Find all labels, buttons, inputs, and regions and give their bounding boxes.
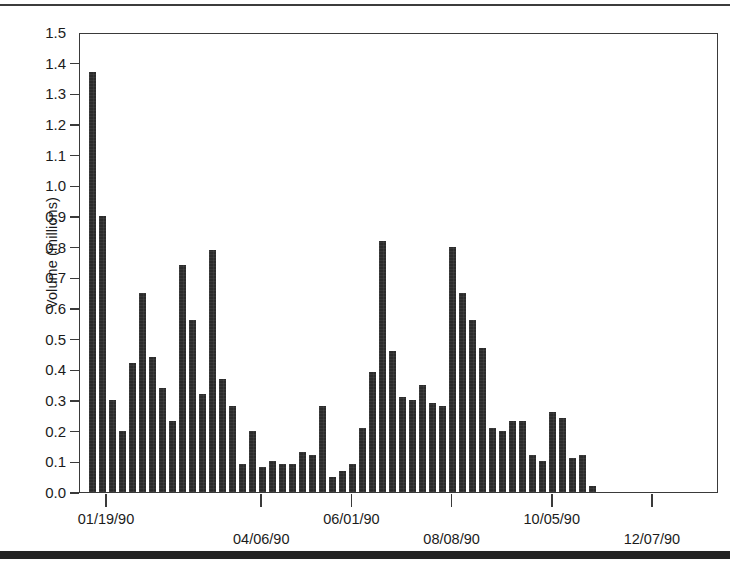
bar bbox=[439, 406, 446, 492]
y-tick-label-wrap: 0.5 bbox=[22, 340, 66, 341]
y-tick-label-wrap: 1.3 bbox=[22, 94, 66, 95]
x-tick-mark bbox=[351, 494, 353, 507]
bar-series bbox=[80, 34, 717, 492]
y-tick-mark bbox=[70, 155, 79, 157]
y-tick-label-wrap: 0.3 bbox=[22, 401, 66, 402]
y-tick-mark bbox=[70, 492, 79, 494]
bar bbox=[529, 455, 536, 492]
bar bbox=[379, 241, 386, 492]
bar bbox=[489, 428, 496, 492]
x-tick-mark bbox=[551, 494, 553, 507]
bar bbox=[299, 452, 306, 492]
y-tick-label: 0.6 bbox=[26, 301, 66, 316]
x-tick-label: 04/06/90 bbox=[233, 531, 289, 547]
bar bbox=[189, 320, 196, 492]
x-tick-mark bbox=[260, 494, 262, 507]
bar bbox=[349, 464, 356, 492]
bar bbox=[309, 455, 316, 492]
bar bbox=[449, 247, 456, 492]
bar bbox=[289, 464, 296, 492]
bar bbox=[589, 486, 596, 492]
x-tick-label: 10/05/90 bbox=[524, 511, 580, 527]
y-tick-mark bbox=[70, 370, 79, 372]
bar bbox=[249, 431, 256, 492]
y-tick-mark bbox=[70, 94, 79, 96]
bar bbox=[209, 250, 216, 492]
bar bbox=[539, 461, 546, 492]
y-tick-label: 1.1 bbox=[26, 148, 66, 163]
y-tick-mark bbox=[70, 339, 79, 341]
y-tick-label: 0.5 bbox=[26, 332, 66, 347]
y-tick-label-wrap: 0.7 bbox=[22, 278, 66, 279]
x-tick-label: 06/01/90 bbox=[323, 511, 379, 527]
y-tick-mark bbox=[70, 63, 79, 65]
y-tick-label: 1.3 bbox=[26, 86, 66, 101]
y-tick-label-wrap: 1.4 bbox=[22, 64, 66, 65]
y-tick-label-wrap: 0.1 bbox=[22, 462, 66, 463]
y-tick-label: 0.1 bbox=[26, 454, 66, 469]
bar bbox=[479, 348, 486, 492]
bar bbox=[129, 363, 136, 492]
bar bbox=[259, 467, 266, 492]
bar bbox=[169, 421, 176, 492]
bar bbox=[459, 293, 466, 492]
x-tick-mark bbox=[651, 494, 653, 507]
y-tick-label: 0.0 bbox=[26, 485, 66, 500]
y-tick-mark bbox=[70, 247, 79, 249]
bar bbox=[389, 351, 396, 492]
bar bbox=[139, 293, 146, 492]
bar bbox=[339, 471, 346, 492]
bar bbox=[359, 428, 366, 492]
bar bbox=[109, 400, 116, 492]
scanned-page: Volume (millions) 1.51.41.31.21.11.00.90… bbox=[0, 0, 730, 567]
y-tick-mark bbox=[70, 124, 79, 126]
bar bbox=[329, 477, 336, 492]
y-tick-label-wrap: 0.6 bbox=[22, 309, 66, 310]
y-tick-label: 0.3 bbox=[26, 393, 66, 408]
y-tick-label-wrap: 0.4 bbox=[22, 370, 66, 371]
bar bbox=[269, 461, 276, 492]
bar bbox=[579, 455, 586, 492]
bar bbox=[319, 406, 326, 492]
bar bbox=[409, 400, 416, 492]
bar bbox=[569, 458, 576, 492]
y-tick-label: 1.0 bbox=[26, 178, 66, 193]
bar bbox=[239, 464, 246, 492]
bar bbox=[369, 372, 376, 492]
y-tick-mark bbox=[70, 278, 79, 280]
x-tick-label: 12/07/90 bbox=[624, 531, 680, 547]
y-tick-label-wrap: 1.1 bbox=[22, 156, 66, 157]
y-tick-mark bbox=[70, 186, 79, 188]
x-tick-mark bbox=[451, 494, 453, 507]
bar bbox=[229, 406, 236, 492]
bar bbox=[429, 403, 436, 492]
y-tick-label: 1.4 bbox=[26, 56, 66, 71]
bar bbox=[119, 431, 126, 492]
bar bbox=[99, 216, 106, 492]
page-bottom-band bbox=[0, 551, 730, 559]
bar bbox=[509, 421, 516, 492]
bar bbox=[279, 464, 286, 492]
x-tick-mark bbox=[105, 494, 107, 507]
bar-chart-figure: Volume (millions) 1.51.41.31.21.11.00.90… bbox=[0, 0, 730, 551]
bar bbox=[469, 320, 476, 492]
plot-area bbox=[79, 33, 718, 493]
y-tick-label-wrap: 1.0 bbox=[22, 186, 66, 187]
bar bbox=[559, 418, 566, 492]
y-tick-label: 0.4 bbox=[26, 362, 66, 377]
bar bbox=[219, 379, 226, 492]
y-tick-label: 0.9 bbox=[26, 209, 66, 224]
y-tick-mark bbox=[70, 400, 79, 402]
bar bbox=[549, 412, 556, 492]
y-tick-label-wrap: 0.2 bbox=[22, 432, 66, 433]
bar bbox=[399, 397, 406, 492]
y-tick-label: 1.2 bbox=[26, 117, 66, 132]
bar bbox=[179, 265, 186, 492]
y-tick-label-wrap: 1.2 bbox=[22, 125, 66, 126]
y-tick-label: 1.5 bbox=[26, 25, 66, 40]
y-tick-mark bbox=[70, 308, 79, 310]
y-tick-label: 0.8 bbox=[26, 240, 66, 255]
bar bbox=[89, 72, 96, 492]
bar bbox=[199, 394, 206, 492]
bar bbox=[499, 431, 506, 492]
